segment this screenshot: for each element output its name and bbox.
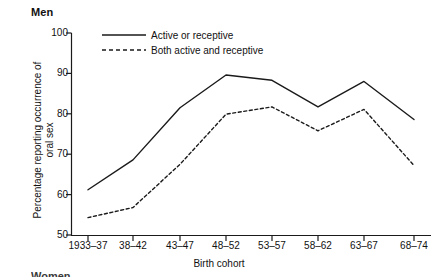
x-axis-ticks <box>88 236 414 242</box>
chart-figure: Men Percentage reporting occurrence of o… <box>0 0 438 277</box>
y-axis-ticks <box>66 33 72 235</box>
next-panel-title: Women <box>31 270 71 277</box>
series-line-active-or-receptive <box>88 75 414 190</box>
plot-area <box>0 0 438 277</box>
series-line-both-active-and-receptive <box>88 107 414 218</box>
